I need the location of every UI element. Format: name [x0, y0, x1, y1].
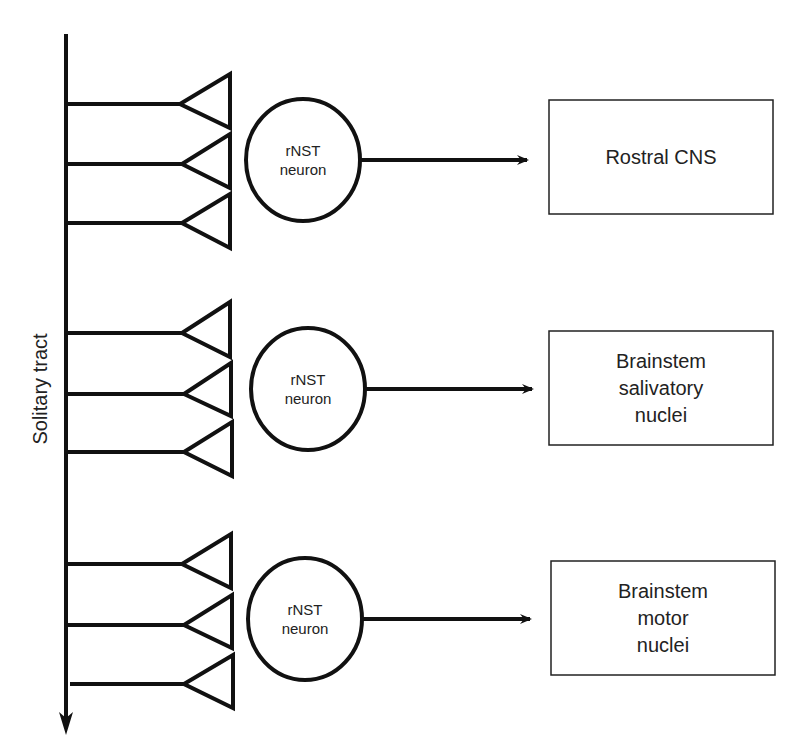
solitary-tract-label: Solitary tract — [29, 333, 52, 444]
neuron-label-line1: rNST — [253, 141, 353, 160]
rnst-neuron-2-label: rNST neuron — [258, 370, 358, 408]
afferent-group-1 — [66, 74, 230, 248]
target-label-line: nuclei — [635, 402, 687, 429]
neuron-label-line2: neuron — [253, 160, 353, 179]
rnst-neuron-3-label: rNST neuron — [255, 600, 355, 638]
rnst-neuron-1-label: rNST neuron — [253, 141, 353, 179]
target-3-label: Brainstem motor nuclei — [551, 561, 775, 675]
target-label-line: Brainstem — [618, 578, 708, 605]
target-label-line: motor — [637, 605, 688, 632]
target-label-line: Brainstem — [616, 348, 706, 375]
target-2-label: Brainstem salivatory nuclei — [549, 331, 773, 445]
afferent-group-3 — [66, 534, 233, 708]
neuron-label-line1: rNST — [258, 370, 358, 389]
solitary-tract-arrow — [59, 34, 73, 735]
neuron-label-line2: neuron — [255, 619, 355, 638]
target-label-line: Rostral CNS — [605, 144, 716, 171]
target-label-line: salivatory — [619, 375, 703, 402]
neuron-label-line1: rNST — [255, 600, 355, 619]
target-label-line: nuclei — [637, 632, 689, 659]
afferent-group-2 — [66, 302, 232, 476]
neuron-label-line2: neuron — [258, 389, 358, 408]
target-1-label: Rostral CNS — [549, 100, 773, 214]
